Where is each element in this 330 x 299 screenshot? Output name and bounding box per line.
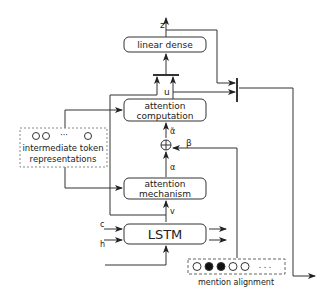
alignment-dot-filled bbox=[217, 263, 225, 271]
mention-alignment-label: mention alignment bbox=[198, 278, 274, 287]
intermediate-line1: intermediate token bbox=[22, 143, 103, 153]
alignment-dot bbox=[193, 263, 201, 271]
output-arrow bbox=[239, 88, 315, 276]
z-label: z bbox=[160, 20, 165, 30]
alignment-dot-filled bbox=[205, 263, 213, 271]
intermediate-to-computation-arrow bbox=[65, 110, 122, 128]
alignment-dot bbox=[229, 263, 237, 271]
attention-computation-line1: attention bbox=[144, 101, 185, 111]
token-circle bbox=[43, 133, 50, 140]
intermediate-line2: representations bbox=[30, 154, 97, 164]
c-label: c bbox=[100, 220, 104, 229]
alpha-tilde-label: α̃ bbox=[170, 127, 175, 136]
lstm-label: LSTM bbox=[148, 227, 183, 242]
alpha-label: α bbox=[170, 163, 175, 172]
token-circle bbox=[33, 133, 40, 140]
attention-computation-line2: computation bbox=[137, 111, 194, 121]
v-label: v bbox=[170, 207, 175, 216]
h-label: h bbox=[100, 240, 105, 249]
alignment-dot bbox=[241, 263, 249, 271]
alignment-dots: . . . bbox=[259, 261, 272, 270]
u-label: u bbox=[164, 87, 170, 97]
attention-mechanism-line2: mechanism bbox=[139, 189, 191, 199]
lstm-input-arrow bbox=[105, 246, 166, 265]
diagram-canvas: z linear dense u attention computation α… bbox=[0, 0, 330, 299]
intermediate-to-mechanism-arrow bbox=[65, 167, 122, 188]
token-circle bbox=[85, 133, 92, 140]
intermediate-dots: ··· bbox=[60, 131, 68, 140]
beta-label: β bbox=[186, 138, 192, 148]
attention-mechanism-line1: attention bbox=[144, 179, 185, 189]
linear-dense-label: linear dense bbox=[137, 40, 193, 50]
